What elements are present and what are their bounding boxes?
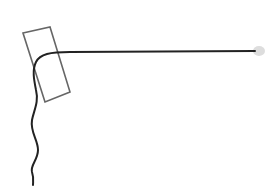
- diagram-canvas: [0, 0, 265, 195]
- rotated-rectangle: [23, 27, 70, 102]
- wire-line: [32, 51, 255, 185]
